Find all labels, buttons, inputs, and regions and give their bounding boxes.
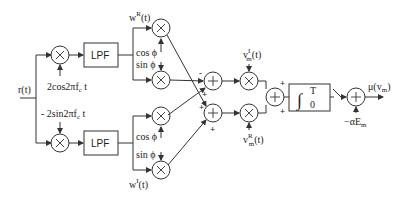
branch-bottom: wI(t) cos ϕ sin ϕ (118, 107, 170, 191)
svg-text:+: + (210, 124, 215, 134)
input-label: r(t) (18, 84, 31, 96)
svg-text:cos ϕ: cos ϕ (136, 47, 157, 58)
adder-connections (167, 35, 206, 165)
svg-text:LPF: LPF (91, 138, 109, 149)
svg-text:T: T (310, 85, 316, 96)
integrator: ∫ T 0 (289, 84, 334, 111)
ref-mixer-bottom: vRm(t) (240, 104, 266, 148)
svg-text:cos ϕ: cos ϕ (136, 131, 157, 142)
svg-text:LPF: LPF (91, 50, 109, 61)
sum-node: + + (266, 78, 289, 116)
ref-mixer-top: vIm(t) (240, 47, 266, 90)
carrier-sin-label: - 2sin2πfc t (41, 108, 86, 121)
svg-text:-: - (199, 68, 202, 78)
adder-1: - + (199, 68, 239, 99)
input-signal: r(t) (18, 55, 51, 143)
svg-text:sin ϕ: sin ϕ (136, 149, 155, 160)
svg-text:sin ϕ: sin ϕ (136, 59, 155, 70)
output-label: μ(vm) (368, 81, 391, 94)
mixer-top: 2cos2πfc t (47, 46, 87, 94)
weight-imag-label: wI(t) (129, 177, 148, 191)
sampling-switch (333, 89, 346, 97)
lpf-bottom: LPF (84, 131, 118, 155)
svg-text:+: + (202, 89, 207, 99)
svg-text:+: + (199, 102, 204, 112)
weight-real-label: wR(t) (129, 10, 150, 24)
bias-label: −αEm (344, 116, 367, 129)
lpf-top: LPF (84, 43, 118, 67)
ref-imag-label: vIm(t) (243, 47, 261, 63)
bias-adder: −αEm μ(vm) (344, 81, 391, 129)
svg-text:+: + (280, 106, 285, 116)
carrier-cos-label: 2cos2πfc t (47, 81, 87, 94)
svg-text:+: + (280, 78, 285, 88)
branch-top: wR(t) cos ϕ sin ϕ (118, 10, 170, 89)
ref-real-label: vRm(t) (243, 132, 264, 148)
svg-text:0: 0 (310, 99, 315, 110)
mixer-bottom: - 2sin2πfc t (41, 108, 86, 152)
adder-2: + + (199, 102, 239, 134)
demodulator-block-diagram: r(t) 2cos2πfc t - 2sin2πfc t LPF LPF wR(… (0, 0, 409, 197)
